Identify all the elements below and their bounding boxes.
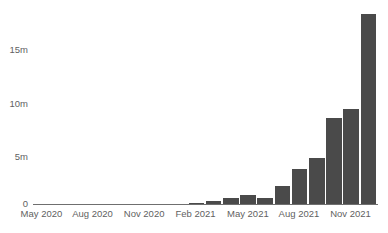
x-tick-label: Nov 2020 xyxy=(124,208,165,220)
bar xyxy=(292,169,308,205)
x-tick-label: Aug 2020 xyxy=(72,208,113,220)
x-axis-labels: May 2020Aug 2020Nov 2020Feb 2021May 2021… xyxy=(0,208,388,228)
x-axis-line xyxy=(33,204,378,205)
bar xyxy=(361,14,377,205)
y-axis-labels: 15m 10m 5m 0 xyxy=(0,0,28,233)
bar xyxy=(343,109,359,205)
bar xyxy=(326,118,342,205)
bar xyxy=(275,186,291,205)
x-tick-label: Nov 2021 xyxy=(330,208,371,220)
bar-chart: 15m 10m 5m 0 May 2020Aug 2020Nov 2020Feb… xyxy=(0,0,388,233)
y-tick-label-5m: 5m xyxy=(15,152,28,162)
plot-area xyxy=(33,8,377,205)
bar xyxy=(309,158,325,205)
bars-layer xyxy=(33,8,377,205)
x-tick-label: May 2020 xyxy=(21,208,63,220)
y-tick-label-15m: 15m xyxy=(10,45,28,55)
x-tick-label: Aug 2021 xyxy=(279,208,320,220)
x-tick-label: Feb 2021 xyxy=(175,208,215,220)
y-tick-label-10m: 10m xyxy=(10,99,28,109)
x-tick-label: May 2021 xyxy=(227,208,269,220)
